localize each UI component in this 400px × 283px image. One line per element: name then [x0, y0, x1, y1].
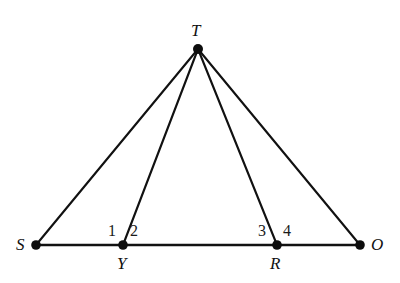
point-label-Y: Y [117, 255, 126, 272]
geometry-canvas [0, 0, 400, 283]
point-label-S: S [16, 236, 25, 253]
segment-TR [198, 49, 277, 245]
vertex-dot-R [272, 240, 282, 250]
angle-label-2: 2 [130, 223, 138, 239]
point-label-O: O [371, 236, 383, 253]
point-label-R: R [270, 255, 280, 272]
geometry-figure: T S Y R O 1 2 3 4 [0, 0, 400, 283]
segment-TY [123, 49, 198, 245]
point-label-T: T [191, 22, 200, 39]
segment-TS [36, 49, 198, 245]
vertex-dot-O [355, 240, 365, 250]
vertex-dot-S [31, 240, 41, 250]
vertex-dot-Y [118, 240, 128, 250]
segment-TO [198, 49, 360, 245]
angle-label-3: 3 [258, 223, 266, 239]
angle-label-1: 1 [108, 223, 116, 239]
angle-label-4: 4 [283, 223, 291, 239]
vertex-dot-T [193, 44, 203, 54]
